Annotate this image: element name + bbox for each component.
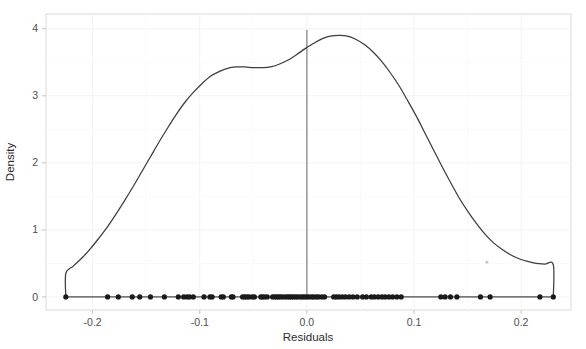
rug-point [537,294,542,299]
rug-point [148,294,153,299]
x-tick-label: 0.2 [514,316,529,328]
density-plot-figure: -0.2-0.10.00.10.2 01234 Residuals Densit… [0,0,586,349]
rug-point [448,294,453,299]
rug-point [488,294,493,299]
x-tick-label: 0.0 [300,316,315,328]
y-tick-label: 2 [32,156,38,168]
rug-point [176,294,181,299]
rug-point [191,294,196,299]
rug-point [209,294,214,299]
faint-artifact-dot [485,260,488,263]
rug-point [252,294,257,299]
rug-point [137,294,142,299]
x-tick-label: -0.1 [191,316,209,328]
x-tick-label: -0.2 [84,316,102,328]
y-tick-label: 0 [32,291,38,303]
rug-point [63,294,68,299]
y-tick-label: 4 [32,22,38,34]
rug-point [478,294,483,299]
rug-point [364,294,369,299]
chart-canvas: -0.2-0.10.00.10.2 01234 Residuals Densit… [0,0,586,349]
plot-panel [46,14,571,310]
rug-point [443,294,448,299]
rug-point [399,294,404,299]
x-tick-label: 0.1 [407,316,422,328]
rug-point [322,294,327,299]
rug-point [551,294,556,299]
rug-point [454,294,459,299]
rug-point [130,294,135,299]
rug-point [162,294,167,299]
rug-point [230,294,235,299]
y-axis-title: Density [4,143,16,182]
y-tick-label: 1 [32,223,38,235]
rug-point [265,294,270,299]
x-axis-title: Residuals [283,331,334,343]
rug-point [116,294,121,299]
panel-border [46,14,571,310]
rug-point [355,294,360,299]
y-tick-label: 3 [32,89,38,101]
rug-point [221,294,226,299]
rug-point [105,294,110,299]
rug-point [201,294,206,299]
